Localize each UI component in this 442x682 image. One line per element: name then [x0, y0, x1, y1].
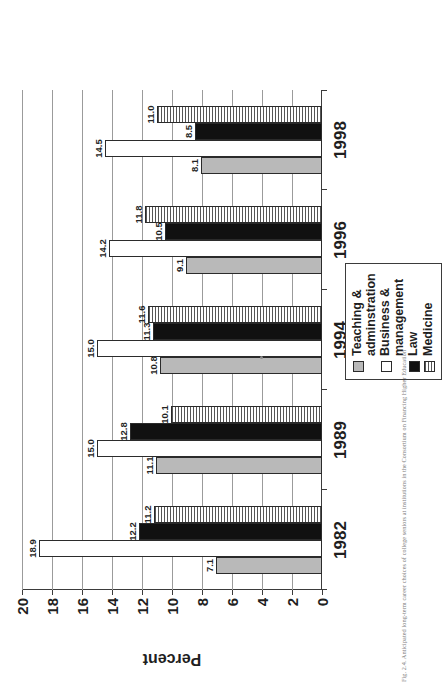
bar-value-label: 11.1 [144, 457, 155, 475]
bar-group-1982: 7.118.912.211.21982 [22, 490, 322, 590]
bar-value-label: 18.9 [27, 539, 38, 558]
white-swatch [381, 361, 392, 372]
bar-1994-business: 15.0 [97, 340, 322, 357]
value-axis-tick [262, 590, 263, 595]
horizontal-hatch-swatch [424, 361, 435, 372]
bar-1982-medicine: 11.2 [154, 506, 322, 523]
category-axis-label: 1989 [331, 390, 351, 490]
value-axis-tick [112, 590, 113, 595]
bar-1996-teaching: 9.1 [186, 257, 323, 274]
bar-value-label: 11.0 [145, 106, 156, 124]
scan-artifact-speck [260, 356, 263, 359]
bar-value-label: 14.2 [97, 239, 108, 258]
bar-1982-law: 12.2 [139, 523, 322, 540]
plot-area: 02468101214161820 7.118.912.211.2198211.… [22, 90, 322, 590]
bar-1996-medicine: 11.8 [145, 206, 322, 223]
category-axis-label: 1998 [331, 90, 351, 190]
bar-1989-teaching: 11.1 [156, 457, 323, 474]
bar-value-label: 11.2 [142, 506, 153, 524]
bar-value-label: 10.5 [153, 222, 164, 241]
category-axis-tick [322, 489, 327, 490]
value-axis-tick [322, 590, 323, 595]
value-axis-tick-label: 0 [314, 598, 331, 606]
value-axis-tick-label: 4 [254, 598, 271, 606]
bar-1989-law: 12.8 [130, 423, 322, 440]
bar-value-label: 8.5 [183, 125, 194, 138]
bar-1996-business: 14.2 [109, 240, 322, 257]
bar-value-label: 15.0 [85, 339, 96, 358]
value-axis-tick [172, 590, 173, 595]
bar-value-label: 11.6 [136, 306, 147, 324]
bar-1998-teaching: 8.1 [201, 157, 323, 174]
solid-light-gray-swatch [353, 361, 364, 372]
value-axis-tick-label: 14 [104, 598, 121, 615]
value-axis-tick-label: 10 [164, 598, 181, 615]
bar-value-label: 14.5 [93, 139, 104, 158]
legend-item-label: Medicine [422, 303, 436, 357]
legend-item-teaching: Teaching & adminstration [351, 273, 378, 372]
legend-item-label: Teaching & adminstration [351, 273, 378, 356]
category-axis-tick [322, 389, 327, 390]
value-axis-tick [202, 590, 203, 595]
legend: Teaching & adminstrationBusiness & manag… [345, 263, 442, 380]
bar-1998-medicine: 11.0 [157, 106, 322, 123]
bar-value-label: 10.8 [148, 356, 159, 375]
category-axis-tick [322, 90, 327, 91]
category-axis-label: 1982 [331, 490, 351, 590]
bar-value-label: 12.2 [127, 522, 138, 541]
value-axis-tick-label: 20 [14, 598, 31, 615]
bar-group-1996: 9.114.210.511.81996 [22, 190, 322, 290]
bar-1989-medicine: 10.1 [171, 406, 323, 423]
bar-group-1998: 8.114.58.511.01998 [22, 90, 322, 190]
bar-1996-law: 10.5 [165, 223, 323, 240]
bar-value-label: 15.0 [85, 439, 96, 458]
bar-1994-law: 11.3 [153, 323, 323, 340]
value-axis-title: Percent [22, 648, 322, 668]
value-axis-tick [232, 590, 233, 595]
value-axis-tick-label: 2 [284, 598, 301, 606]
bar-1994-teaching: 10.8 [160, 357, 322, 374]
bar-1998-law: 8.5 [195, 123, 323, 140]
value-axis-tick [292, 590, 293, 595]
bar-value-label: 11.8 [133, 206, 144, 224]
bar-value-label: 12.8 [118, 422, 129, 441]
value-axis-tick-label: 8 [194, 598, 211, 606]
value-axis-tick [22, 590, 23, 595]
category-axis-tick [322, 189, 327, 190]
bar-1994-medicine: 11.6 [148, 306, 322, 323]
bar-group-1989: 11.115.012.810.11989 [22, 390, 322, 490]
category-axis-tick [322, 289, 327, 290]
value-axis-tick [82, 590, 83, 595]
value-axis-tick-label: 16 [74, 598, 91, 615]
bar-value-label: 9.1 [174, 259, 185, 272]
category-axis-tick [322, 589, 327, 590]
value-axis-tick-label: 6 [224, 598, 241, 606]
bar-value-label: 10.1 [159, 405, 170, 424]
value-axis-tick-label: 12 [134, 598, 151, 615]
bar-1998-business: 14.5 [105, 140, 323, 157]
bar-1989-business: 15.0 [97, 440, 322, 457]
value-axis-tick-label: 18 [44, 598, 61, 615]
bar-1982-teaching: 7.1 [216, 557, 323, 574]
value-axis-tick [142, 590, 143, 595]
bar-value-label: 8.1 [189, 159, 200, 172]
figure-caption: Fig. 2.4. Anticipated long-term career c… [396, 0, 412, 682]
value-axis-tick [52, 590, 53, 595]
bar-group-1994: 10.815.011.311.61994 [22, 290, 322, 390]
bar-value-label: 11.3 [141, 323, 152, 341]
bar-1982-business: 18.9 [39, 540, 323, 557]
legend-item-medicine: Medicine [422, 273, 436, 372]
bar-value-label: 7.1 [204, 559, 215, 572]
